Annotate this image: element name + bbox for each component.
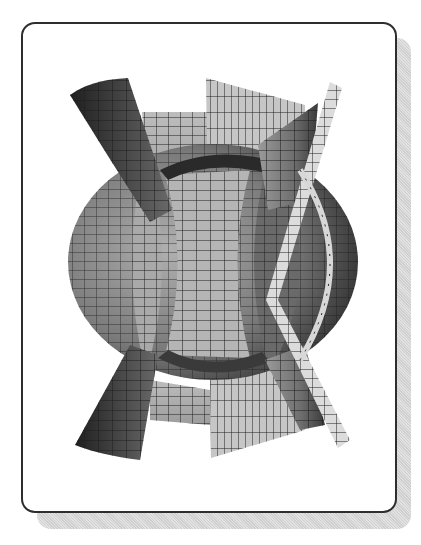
back-sheet-lower <box>150 380 210 425</box>
surface-illustration <box>0 0 421 545</box>
left-sheet-lower <box>75 345 158 460</box>
sphere <box>68 144 358 380</box>
